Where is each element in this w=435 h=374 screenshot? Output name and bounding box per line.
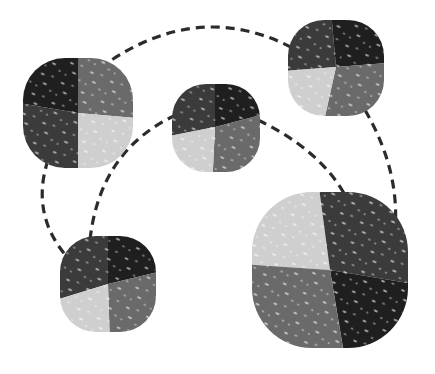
node-b[interactable]: [150, 70, 280, 190]
node-e[interactable]: [240, 180, 420, 360]
node-a[interactable]: [0, 40, 160, 190]
diagram-canvas: [0, 0, 435, 374]
node-c[interactable]: [270, 0, 400, 130]
edge-a-c: [100, 27, 300, 68]
edge-b-e: [258, 120, 345, 195]
edge-a-d: [42, 160, 68, 258]
node-d[interactable]: [40, 220, 175, 345]
diagram-svg: [0, 0, 435, 374]
